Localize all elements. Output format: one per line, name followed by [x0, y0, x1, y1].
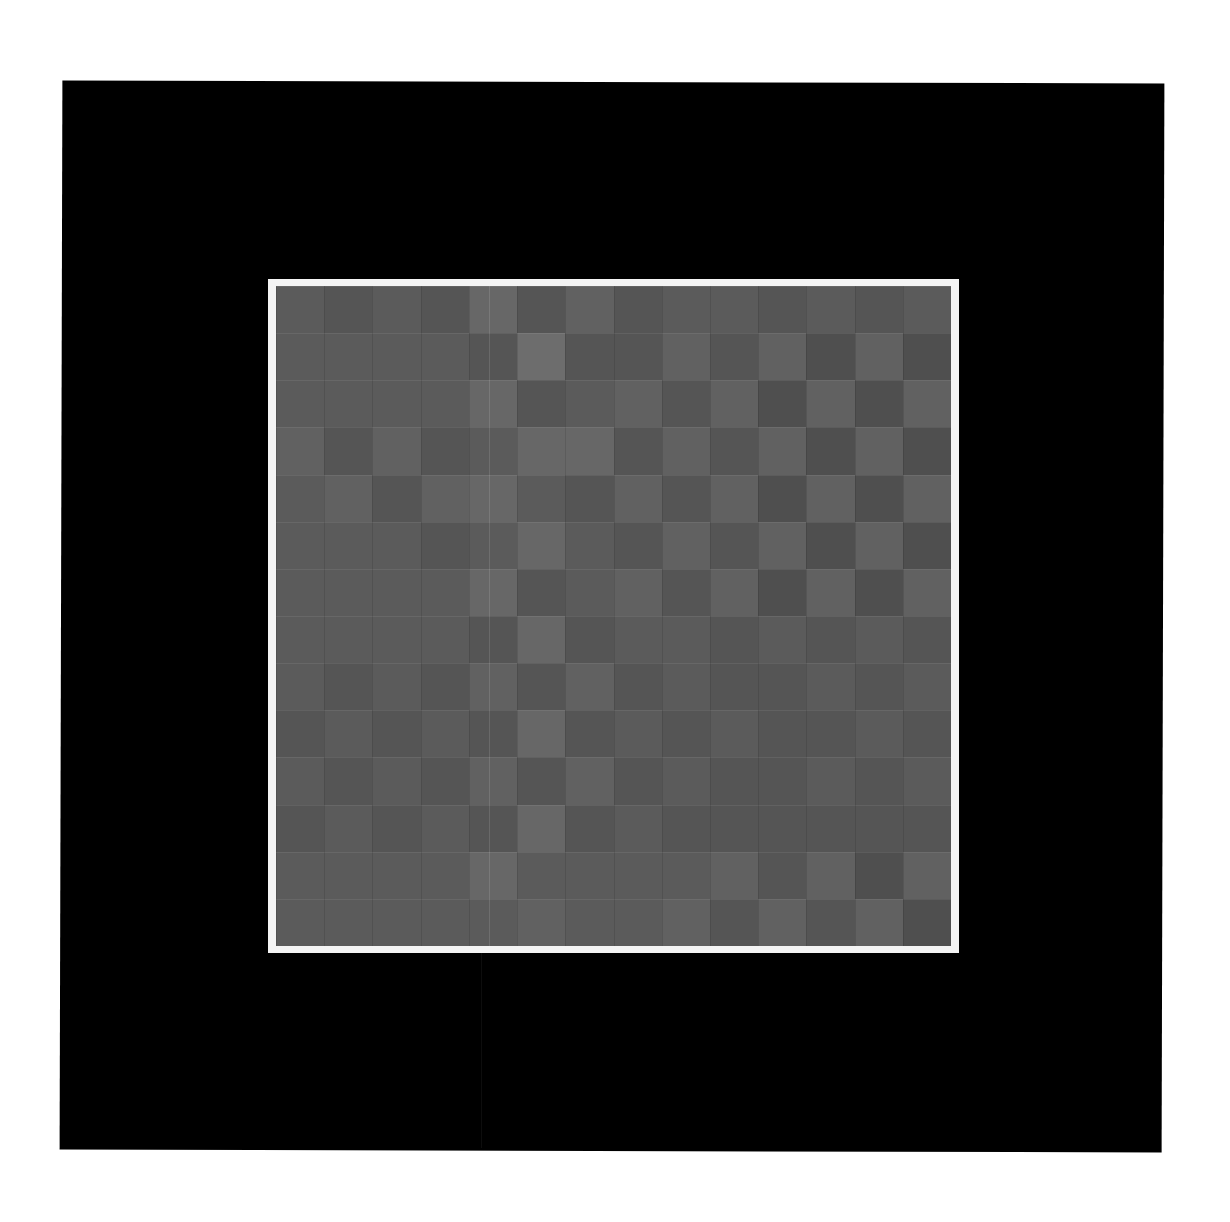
- grid-cell: [662, 663, 710, 710]
- grid-cell: [276, 286, 324, 333]
- grid-cell: [806, 522, 854, 569]
- grid-cell: [372, 663, 420, 710]
- grid-cell: [710, 899, 758, 946]
- grid-cell: [855, 852, 903, 899]
- grid-cell: [614, 663, 662, 710]
- grid-cell: [517, 286, 565, 333]
- grid-cell: [469, 333, 517, 380]
- grid-cell: [517, 427, 565, 474]
- grid-cell: [903, 333, 951, 380]
- grid-cell: [324, 710, 372, 757]
- grid-cell: [517, 380, 565, 427]
- grid-cell: [758, 757, 806, 804]
- grid-cell: [758, 380, 806, 427]
- grid-cell: [324, 427, 372, 474]
- grid-cell: [565, 757, 613, 804]
- grid-cell: [662, 522, 710, 569]
- grid-cell: [372, 757, 420, 804]
- grid-cell: [421, 852, 469, 899]
- grid-cell: [324, 852, 372, 899]
- grid-cell: [565, 710, 613, 757]
- grid-cell: [469, 522, 517, 569]
- grid-cell: [903, 475, 951, 522]
- grid-cell: [324, 333, 372, 380]
- grid-cell: [710, 757, 758, 804]
- grid-cell: [276, 757, 324, 804]
- grid-cell: [372, 427, 420, 474]
- grid-cell: [276, 522, 324, 569]
- grid-cell: [710, 380, 758, 427]
- grid-cell: [855, 286, 903, 333]
- grid-cell: [421, 475, 469, 522]
- grid-cell: [469, 805, 517, 852]
- grid-cell: [758, 805, 806, 852]
- grid-cell: [614, 475, 662, 522]
- grid-cell: [324, 805, 372, 852]
- grid-cell: [662, 475, 710, 522]
- grid-cell: [662, 333, 710, 380]
- grid-cell: [469, 427, 517, 474]
- grid-cell: [903, 663, 951, 710]
- grid-cell: [903, 757, 951, 804]
- grid-cell: [903, 616, 951, 663]
- grid-cell: [903, 852, 951, 899]
- grid-cell: [710, 663, 758, 710]
- grid-cell: [565, 616, 613, 663]
- grid-cell: [421, 710, 469, 757]
- grid-cell: [276, 380, 324, 427]
- grid-cell: [662, 805, 710, 852]
- grid-cell: [421, 616, 469, 663]
- grid-cell: [855, 899, 903, 946]
- grid-cell: [372, 805, 420, 852]
- grid-cell: [758, 663, 806, 710]
- grid-cell: [758, 710, 806, 757]
- grid-cell: [565, 805, 613, 852]
- grid-cell: [855, 757, 903, 804]
- grid-cell: [276, 569, 324, 616]
- grid-cell: [710, 569, 758, 616]
- grid-cell: [710, 333, 758, 380]
- grid-cell: [903, 522, 951, 569]
- grid-cell: [421, 427, 469, 474]
- grid-cell: [469, 616, 517, 663]
- grid-cell: [517, 569, 565, 616]
- grid-cell: [421, 380, 469, 427]
- grid-cell: [421, 663, 469, 710]
- grid-cell: [276, 852, 324, 899]
- grid-cell: [372, 380, 420, 427]
- grid-cell: [614, 569, 662, 616]
- grid-cell: [276, 475, 324, 522]
- grid-cell: [710, 616, 758, 663]
- grid-cell: [469, 286, 517, 333]
- grid-cell: [324, 757, 372, 804]
- grid-cell: [855, 569, 903, 616]
- grid-cell: [517, 522, 565, 569]
- grid-cell: [614, 805, 662, 852]
- grid-cell: [806, 380, 854, 427]
- grid-cell: [565, 427, 613, 474]
- grid-cell: [806, 663, 854, 710]
- grid-cell: [614, 757, 662, 804]
- grid-cell: [565, 522, 613, 569]
- grid-cell: [324, 663, 372, 710]
- grid-cell: [421, 333, 469, 380]
- grid-cell: [324, 380, 372, 427]
- grid-cell: [372, 333, 420, 380]
- scan-artifact-line: [489, 286, 490, 946]
- grid-cell: [469, 757, 517, 804]
- grid-cell: [324, 522, 372, 569]
- grid-cell: [517, 899, 565, 946]
- grid-cell: [469, 569, 517, 616]
- grid-cell: [372, 616, 420, 663]
- grid-cell: [517, 333, 565, 380]
- grid-cell: [662, 757, 710, 804]
- checkerboard-grid: [276, 286, 951, 946]
- grid-cell: [614, 710, 662, 757]
- grid-cell: [276, 805, 324, 852]
- grid-cell: [903, 710, 951, 757]
- grid-cell: [421, 522, 469, 569]
- grid-cell: [276, 333, 324, 380]
- grid-cell: [662, 286, 710, 333]
- grid-cell: [565, 286, 613, 333]
- grid-cell: [758, 616, 806, 663]
